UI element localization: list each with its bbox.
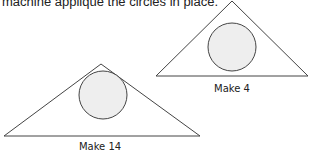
figure-make-14: Make 14 (4, 64, 200, 152)
label-make-14: Make 14 (79, 141, 121, 152)
circle-small (208, 23, 256, 71)
figure-make-4: Make 4 (156, 1, 308, 94)
circle-large (79, 71, 127, 119)
applique-diagram: Make 4 Make 14 (0, 0, 313, 153)
label-make-4: Make 4 (214, 83, 250, 94)
